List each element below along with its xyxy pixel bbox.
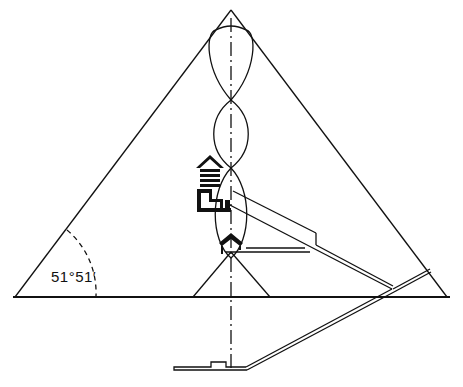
angle-arc (67, 230, 96, 296)
grand-gallery-lower (226, 203, 392, 289)
entrance-passage-a (393, 269, 430, 289)
pyramid-section-diagram (0, 0, 463, 387)
entrance-passage-b (394, 272, 431, 292)
angle-label: 51°51′ (51, 268, 96, 285)
upper-lobe (209, 30, 253, 100)
descending-passage-b (247, 292, 394, 370)
base-triangle-right (231, 252, 270, 297)
descending-passage-a (246, 289, 392, 367)
base-triangle-left (193, 252, 231, 297)
ascending-passage-inner (316, 245, 393, 286)
subterranean-chamber (174, 362, 247, 370)
pyramid-left-face (15, 10, 231, 297)
pyramid-right-face (231, 10, 447, 297)
